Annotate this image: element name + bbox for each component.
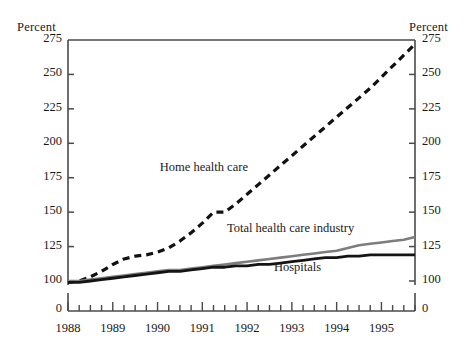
y-tick-label-left-125: 125 <box>28 238 62 253</box>
y-tick-label-right-275: 275 <box>422 31 456 46</box>
y-tick-label-left-150: 150 <box>28 203 62 218</box>
y-tick-label-right-225: 225 <box>422 100 456 115</box>
series-label-0: Home health care <box>160 160 248 175</box>
x-tick-label-1988: 1988 <box>45 321 91 336</box>
y-tick-label-left-275: 275 <box>28 31 62 46</box>
chart-figure: Percent Percent 100125150175200225250275… <box>0 0 469 360</box>
y-tick-label-left-0: 0 <box>28 301 62 316</box>
y-tick-label-right-175: 175 <box>422 169 456 184</box>
y-tick-label-right-0: 0 <box>422 301 456 316</box>
x-tick-label-1991: 1991 <box>179 321 225 336</box>
x-tick-label-1992: 1992 <box>224 321 270 336</box>
x-tick-label-1994: 1994 <box>314 321 360 336</box>
series-line-2 <box>68 255 415 283</box>
series-label-1: Total health care industry <box>227 221 354 236</box>
y-tick-label-right-150: 150 <box>422 203 456 218</box>
x-tick-label-1989: 1989 <box>90 321 136 336</box>
y-tick-label-right-250: 250 <box>422 65 456 80</box>
plot-area <box>0 0 469 360</box>
x-tick-label-1993: 1993 <box>269 321 315 336</box>
x-tick-label-1995: 1995 <box>358 321 404 336</box>
y-tick-label-left-100: 100 <box>28 272 62 287</box>
y-tick-label-left-200: 200 <box>28 134 62 149</box>
y-tick-label-right-125: 125 <box>422 238 456 253</box>
series-label-2: Hospitals <box>274 260 321 275</box>
axis-frame <box>68 40 415 311</box>
series-line-1 <box>68 237 415 281</box>
y-tick-label-left-250: 250 <box>28 65 62 80</box>
y-tick-label-right-200: 200 <box>422 134 456 149</box>
y-tick-label-left-225: 225 <box>28 100 62 115</box>
x-tick-label-1990: 1990 <box>135 321 181 336</box>
y-tick-label-right-100: 100 <box>422 272 456 287</box>
y-tick-label-left-175: 175 <box>28 169 62 184</box>
